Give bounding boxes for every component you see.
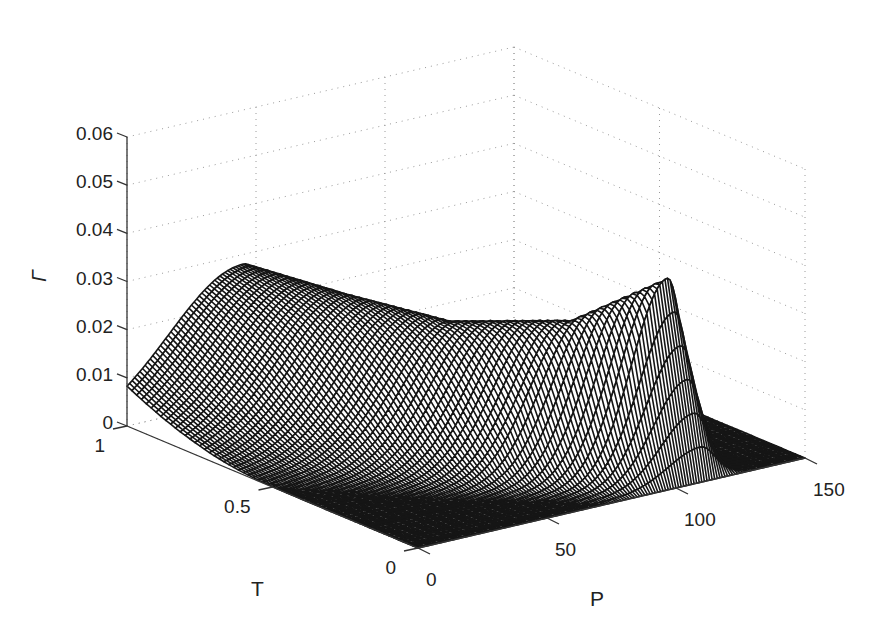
x-tick-label: 100 — [684, 509, 716, 530]
x-tick — [676, 488, 688, 494]
z-tick — [117, 422, 127, 426]
z-tick — [117, 181, 127, 185]
x-axis-label: P — [590, 587, 604, 610]
z-tick — [117, 229, 127, 233]
y-tick — [259, 487, 273, 490]
z-tick-label: 0.03 — [76, 268, 113, 289]
x-tick-label: 50 — [555, 539, 576, 560]
z-tick-label: 0.02 — [76, 316, 113, 337]
grid-line — [127, 192, 514, 282]
y-tick — [113, 426, 127, 429]
x-tick — [805, 458, 817, 464]
y-tick-label: 0 — [385, 557, 396, 578]
z-tick-label: 0.04 — [76, 219, 113, 240]
z-axis-label: Γ — [27, 269, 50, 282]
y-axis-label: T — [251, 577, 264, 600]
z-tick-label: 0.06 — [76, 123, 113, 144]
y-tick-label: 1 — [94, 435, 105, 456]
x-tick-label: 150 — [813, 479, 845, 500]
grid-line — [127, 95, 514, 185]
surface-plot: 05010015000.5100.010.020.030.040.050.06 … — [0, 0, 886, 635]
grid-line — [127, 143, 514, 233]
x-tick-label: 0 — [426, 569, 437, 590]
grid-line — [127, 47, 514, 137]
z-tick — [117, 374, 127, 378]
x-tick — [547, 518, 559, 524]
z-tick — [117, 133, 127, 137]
z-tick — [117, 326, 127, 330]
z-tick-label: 0.05 — [76, 171, 113, 192]
y-tick-label: 0.5 — [224, 496, 250, 517]
z-tick-label: 0 — [102, 412, 113, 433]
y-tick — [404, 548, 418, 551]
x-tick — [418, 548, 430, 554]
z-tick-label: 0.01 — [76, 364, 113, 385]
z-tick — [117, 278, 127, 282]
